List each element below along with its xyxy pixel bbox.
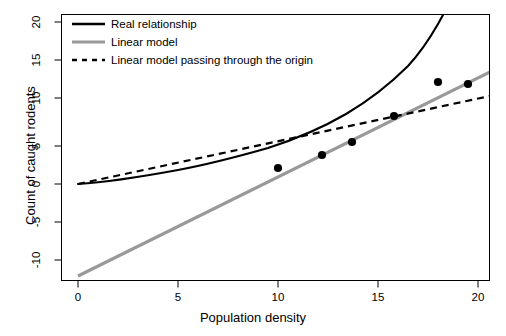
y-axis-ticks bbox=[55, 22, 62, 260]
x-axis-ticks bbox=[78, 281, 478, 288]
x-axis-title: Population density bbox=[0, 310, 506, 325]
y-tick-label-neg10: -10 bbox=[30, 245, 42, 275]
data-point bbox=[274, 164, 282, 172]
series-linear-model bbox=[78, 72, 490, 276]
data-point bbox=[348, 138, 356, 146]
x-tick-label-10: 10 bbox=[267, 291, 289, 303]
data-points bbox=[274, 78, 472, 172]
x-tick-label-5: 5 bbox=[170, 291, 186, 303]
series-linear-model-origin bbox=[78, 96, 490, 184]
x-tick-label-0: 0 bbox=[70, 291, 86, 303]
x-tick-label-20: 20 bbox=[467, 291, 489, 303]
legend-label-linear-model-origin: Linear model passing through the origin bbox=[111, 54, 313, 66]
legend-label-real-relationship: Real relationship bbox=[111, 18, 197, 30]
data-point bbox=[390, 112, 398, 120]
plot-area bbox=[0, 0, 506, 336]
legend-label-linear-model: Linear model bbox=[111, 36, 177, 48]
chart-figure: 0 5 10 15 20 20 15 10 5 0 -5 -10 Populat… bbox=[0, 0, 506, 336]
y-tick-label-20: 20 bbox=[30, 11, 42, 33]
x-tick-label-15: 15 bbox=[367, 291, 389, 303]
data-point bbox=[318, 151, 326, 159]
data-point bbox=[434, 78, 442, 86]
y-axis-title: Count of caught rodents bbox=[23, 66, 38, 246]
legend-swatches bbox=[72, 24, 105, 60]
data-point bbox=[464, 80, 472, 88]
